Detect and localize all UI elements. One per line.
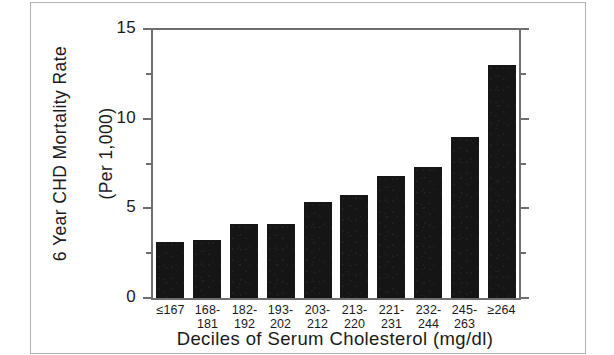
- x-tick-label-line1: 182-: [232, 303, 257, 317]
- y-tick-major: [143, 28, 152, 30]
- bar: [230, 224, 258, 298]
- x-tick-label-line1: ≥264: [487, 303, 515, 317]
- y-tick-major: [143, 297, 152, 299]
- x-tick-label-line1: 232-: [416, 303, 441, 317]
- y-tick-major: [143, 118, 152, 120]
- bar: [340, 195, 368, 298]
- y-tick-minor-right: [520, 252, 526, 254]
- bar: [156, 242, 184, 298]
- y-axis-title-line2: (Per 1,000): [95, 14, 118, 294]
- x-tick-label-line1: 193-: [268, 303, 293, 317]
- y-tick-major-right: [520, 28, 529, 30]
- x-tick-label-line1: 221-: [379, 303, 404, 317]
- bar: [193, 240, 221, 298]
- y-tick-major-right: [520, 297, 529, 299]
- x-axis-title: Deciles of Serum Cholesterol (mg/dl): [100, 328, 570, 350]
- y-tick-minor-right: [520, 73, 526, 75]
- plot-area: [152, 29, 520, 298]
- bar: [414, 167, 442, 298]
- bar: [451, 137, 479, 298]
- x-tick-label: ≥264: [480, 303, 523, 317]
- bar: [488, 65, 516, 298]
- y-tick-major: [143, 207, 152, 209]
- x-tick-label-line1: ≤167: [156, 303, 184, 317]
- y-tick-minor-right: [520, 163, 526, 165]
- y-tick-major-right: [520, 207, 529, 209]
- x-axis-line: [151, 298, 521, 300]
- x-tick-label-line1: 213-: [342, 303, 367, 317]
- x-tick-label-line1: 245-: [452, 303, 477, 317]
- y-axis-title-line1: 6 Year CHD Mortality Rate: [49, 14, 72, 294]
- chart-figure: 051015 ≤167168-181182-192193-202203-2122…: [0, 0, 614, 355]
- bar: [377, 176, 405, 298]
- x-tick-label-line1: 203-: [305, 303, 330, 317]
- y-axis-title: 6 Year CHD Mortality Rate (Per 1,000): [26, 14, 141, 294]
- y-tick-major-right: [520, 118, 529, 120]
- bar: [304, 202, 332, 298]
- x-tick-label-line1: 168-: [195, 303, 220, 317]
- bar: [267, 224, 295, 298]
